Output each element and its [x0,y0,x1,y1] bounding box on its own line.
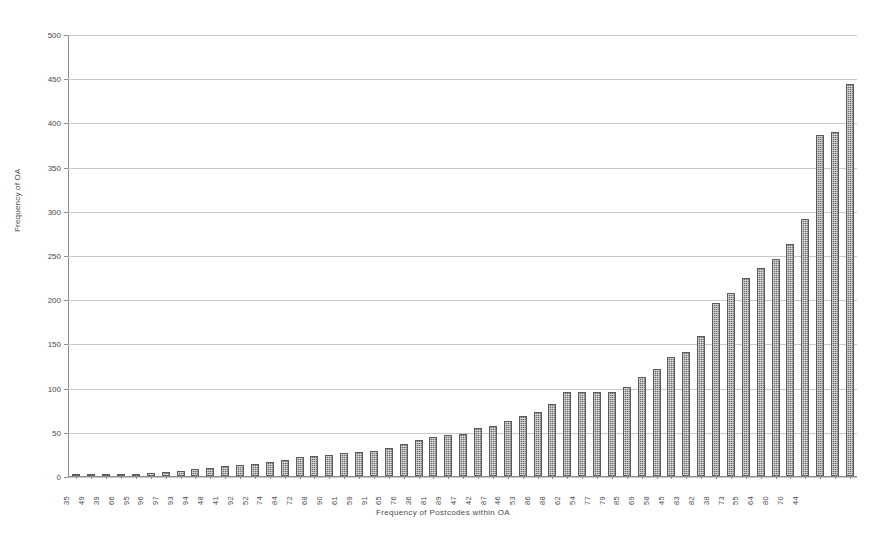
bar[interactable] [534,412,542,476]
bar[interactable] [578,392,586,476]
bar-cell [158,35,173,476]
bar[interactable] [310,456,318,476]
x-tick-mark [151,475,152,479]
y-tick-mark [64,477,68,478]
bar[interactable] [653,369,661,476]
bar[interactable] [519,416,527,476]
bar-cell [129,35,144,476]
bar[interactable] [340,453,348,476]
bar[interactable] [281,460,289,476]
bar[interactable] [712,303,720,476]
bar[interactable] [444,435,452,476]
x-tick-mark [181,475,182,479]
bar-cell [292,35,307,476]
bar-cell [396,35,411,476]
bar[interactable] [385,448,393,476]
bar[interactable] [801,219,809,476]
x-tick-mark [240,475,241,479]
x-tick-mark [478,475,479,479]
bar[interactable] [415,440,423,476]
bar[interactable] [638,377,646,476]
bar[interactable] [682,352,690,476]
bar-cell [233,35,248,476]
x-tick-mark [136,475,137,479]
y-tick-mark [64,212,68,213]
bar[interactable] [355,452,363,476]
y-tick-mark [64,344,68,345]
y-tick-mark [64,300,68,301]
x-tick-mark [433,475,434,479]
x-tick-mark [314,475,315,479]
bar[interactable] [608,392,616,476]
bar-cell [99,35,114,476]
x-tick-mark [746,475,747,479]
y-axis-title: Frequency of OA [13,112,22,232]
bar[interactable] [563,392,571,476]
bar[interactable] [816,135,824,476]
x-tick-mark [701,475,702,479]
x-tick-mark [359,475,360,479]
bar-cell [69,35,84,476]
bar[interactable] [266,462,274,476]
x-tick-mark [582,475,583,479]
x-tick-mark [523,475,524,479]
bar[interactable] [846,84,854,476]
x-tick-mark [597,475,598,479]
bar[interactable] [548,404,556,476]
bar[interactable] [831,132,839,476]
bar-cell [218,35,233,476]
bar[interactable] [296,457,304,476]
x-tick-mark [671,475,672,479]
x-tick-mark [225,475,226,479]
bar-cell [530,35,545,476]
bar[interactable] [667,357,675,476]
x-tick-mark [374,475,375,479]
bar-cell [634,35,649,476]
bar-cell [679,35,694,476]
x-tick-mark [419,475,420,479]
x-tick-mark [820,475,821,479]
bar[interactable] [489,426,497,476]
bar-cell [188,35,203,476]
bar[interactable] [593,392,601,476]
bar[interactable] [772,259,780,476]
bar[interactable] [504,421,512,476]
x-tick-mark [329,475,330,479]
bar-cell [619,35,634,476]
bar-cell [738,35,753,476]
bar-cell [605,35,620,476]
bar-cell [203,35,218,476]
y-tick-mark [64,256,68,257]
bar-cell [768,35,783,476]
x-tick-mark [686,475,687,479]
x-tick-mark [195,475,196,479]
bar[interactable] [757,268,765,476]
bar-cell [560,35,575,476]
bar-cell [456,35,471,476]
y-tick-label: 450 [48,75,61,84]
y-tick-label: 400 [48,119,61,128]
y-tick-mark [64,433,68,434]
bar-cell [694,35,709,476]
bar-cell [411,35,426,476]
bar-cell [381,35,396,476]
bar-cell [798,35,813,476]
bar-cell [322,35,337,476]
x-tick-mark [300,475,301,479]
bar[interactable] [370,451,378,476]
bar[interactable] [474,428,482,476]
bar[interactable] [623,387,631,476]
bar[interactable] [325,455,333,476]
y-tick-label: 100 [48,384,61,393]
bar[interactable] [742,278,750,476]
bar-cell [724,35,739,476]
bar[interactable] [697,336,705,476]
x-tick-mark [538,475,539,479]
y-tick-label: 0 [57,473,61,482]
bar[interactable] [786,244,794,476]
bar[interactable] [429,437,437,476]
bar[interactable] [459,434,467,476]
bar[interactable] [727,293,735,476]
bar[interactable] [400,444,408,476]
x-tick-mark [835,475,836,479]
